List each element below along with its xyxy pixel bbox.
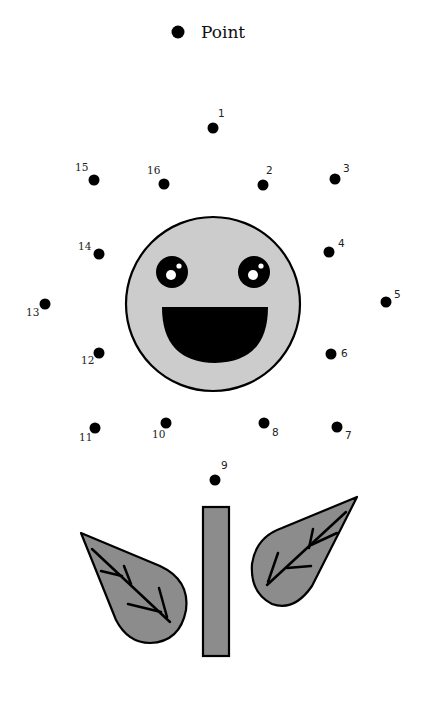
dot-marker-icon xyxy=(159,179,170,190)
dot-number-label: 16 xyxy=(147,164,161,176)
dot-marker-icon xyxy=(259,418,270,429)
legend-label: Point xyxy=(201,22,245,42)
face-circle xyxy=(126,217,300,391)
dot-marker-icon xyxy=(330,174,341,185)
dot-marker-icon xyxy=(89,175,100,186)
legend-marker-icon xyxy=(172,26,185,39)
dot-number-label: 13 xyxy=(26,306,39,318)
dot-number-label: 6 xyxy=(341,347,348,359)
left-eye xyxy=(156,256,188,288)
left-leaf xyxy=(81,533,186,643)
dot-point-8: 8 xyxy=(259,418,279,439)
dot-marker-icon xyxy=(94,249,105,260)
dot-marker-icon xyxy=(210,475,221,486)
dot-number-label: 10 xyxy=(152,428,165,440)
dot-number-label: 15 xyxy=(75,161,88,173)
dot-point-5: 5 xyxy=(381,288,401,308)
dot-number-label: 1 xyxy=(218,107,225,119)
dot-number-label: 5 xyxy=(394,288,401,300)
dot-point-9: 9 xyxy=(210,459,228,486)
dot-marker-icon xyxy=(324,247,335,258)
dot-point-3: 3 xyxy=(330,162,350,185)
dot-number-label: 4 xyxy=(338,237,345,249)
dot-point-2: 2 xyxy=(258,164,273,191)
dot-number-label: 7 xyxy=(345,429,352,441)
dot-number-label: 3 xyxy=(343,162,350,174)
dot-point-10: 10 xyxy=(152,418,172,441)
right-eye xyxy=(238,256,270,288)
dot-number-label: 2 xyxy=(266,164,273,176)
dot-point-4: 4 xyxy=(324,237,346,258)
dot-number-label: 12 xyxy=(81,354,94,366)
dot-marker-icon xyxy=(258,180,269,191)
dot-point-1: 1 xyxy=(208,107,225,134)
dot-marker-icon xyxy=(381,297,392,308)
right-leaf xyxy=(252,497,357,606)
smiley-face xyxy=(126,217,300,391)
dot-marker-icon xyxy=(94,348,105,359)
dot-point-16: 16 xyxy=(147,164,170,190)
dot-point-6: 6 xyxy=(326,347,349,360)
dot-point-11: 11 xyxy=(79,423,101,444)
dot-marker-icon xyxy=(326,349,337,360)
dot-number-label: 8 xyxy=(272,426,279,438)
dot-point-13: 13 xyxy=(26,299,51,319)
dot-to-dot-canvas: Point 1 xyxy=(0,0,424,707)
dot-point-14: 14 xyxy=(78,240,105,260)
dot-number-label: 9 xyxy=(221,459,228,471)
dot-point-12: 12 xyxy=(81,348,105,367)
dot-marker-icon xyxy=(40,299,51,310)
dot-number-label: 14 xyxy=(78,240,92,252)
legend: Point xyxy=(172,22,246,42)
dot-marker-icon xyxy=(208,123,219,134)
dot-point-15: 15 xyxy=(75,161,100,186)
stem xyxy=(203,507,229,656)
dot-number-label: 11 xyxy=(79,431,92,443)
dot-point-7: 7 xyxy=(332,422,352,442)
dot-marker-icon xyxy=(161,418,172,429)
dot-marker-icon xyxy=(332,422,343,433)
